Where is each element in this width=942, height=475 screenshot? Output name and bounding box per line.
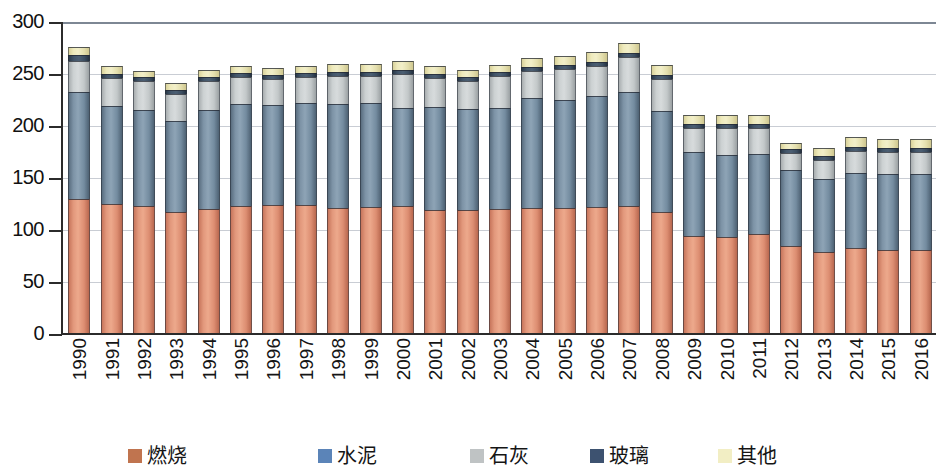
bar-column[interactable] [230,66,252,334]
bar-segment-combustion [489,209,511,334]
bar-segment-glass [165,90,187,94]
bar-segment-glass [68,55,90,60]
bar-segment-other [877,139,899,148]
bar-column[interactable] [521,58,543,334]
legend-item-cement[interactable]: 水泥 [318,446,377,466]
bar-segment-combustion [618,206,640,334]
bar-column[interactable] [683,115,705,334]
legend-label: 燃烧 [147,446,187,466]
bar-segment-cement [910,174,932,250]
legend-label: 其他 [737,446,777,466]
bar-segment-other [716,115,738,124]
bar-segment-cement [554,100,576,208]
legend-item-glass[interactable]: 玻璃 [590,446,649,466]
bar-segment-cement [748,154,770,234]
bar-segment-cement [813,179,835,252]
bar-column[interactable] [392,61,414,334]
x-axis-label-2004: 2004 [522,338,544,380]
bar-segment-combustion [198,209,220,334]
y-tick-label: 250 [0,63,44,83]
bar-segment-glass [748,124,770,128]
bar-segment-lime [360,76,382,103]
bar-column[interactable] [262,68,284,334]
bar-segment-combustion [295,205,317,334]
bar-column[interactable] [780,143,802,334]
bar-column[interactable] [457,70,479,334]
bar-column[interactable] [424,66,446,334]
bar-segment-cement [360,103,382,207]
bar-column[interactable] [295,66,317,334]
bar-segment-cement [101,106,123,204]
bar-segment-cement [295,103,317,205]
bar-segment-lime [295,77,317,103]
x-axis-label-1998: 1998 [328,338,350,380]
bar-column[interactable] [554,56,576,334]
legend-item-lime[interactable]: 石灰 [470,446,529,466]
bar-segment-combustion [877,250,899,334]
bar-segment-glass [651,75,673,79]
bar-segment-glass [877,148,899,152]
bar-segment-glass [198,77,220,81]
bar-column[interactable] [813,148,835,334]
x-axis-label-2011: 2011 [749,338,771,379]
bar-segment-lime [165,94,187,121]
x-axis-label-1999: 1999 [361,338,383,380]
x-axis-label-2007: 2007 [619,338,641,380]
bar-segment-lime [586,66,608,96]
bar-segment-cement [424,107,446,210]
x-axis-label-1996: 1996 [263,338,285,380]
bar-column[interactable] [133,71,155,334]
bar-segment-lime [845,151,867,173]
legend-label: 石灰 [489,446,529,466]
y-axis-line [61,22,63,335]
bar-segment-lime [780,153,802,170]
bar-column[interactable] [360,64,382,334]
bar-segment-combustion [910,250,932,334]
bar-column[interactable] [845,137,867,334]
legend-item-other[interactable]: 其他 [718,446,777,466]
bar-segment-lime [618,57,640,91]
bar-column[interactable] [68,47,90,334]
x-axis-label-2015: 2015 [878,338,900,380]
bar-segment-combustion [683,236,705,334]
bar-segment-glass [716,124,738,128]
x-axis-label-2001: 2001 [425,338,447,380]
bar-column[interactable] [101,66,123,334]
x-axis-label-2016: 2016 [911,338,933,380]
bar-column[interactable] [586,52,608,334]
bar-column[interactable] [910,139,932,334]
bar-column[interactable] [198,70,220,334]
bar-column[interactable] [165,83,187,334]
bar-segment-other [489,65,511,72]
y-tick-label: 100 [0,219,44,239]
legend-swatch-icon [718,449,732,463]
bar-segment-lime [424,78,446,107]
legend-item-combustion[interactable]: 燃烧 [128,446,187,466]
x-axis-label-2012: 2012 [781,338,803,380]
bar-segment-glass [327,72,349,76]
bar-column[interactable] [327,64,349,334]
bar-segment-cement [489,108,511,209]
y-tick-label: 50 [0,271,44,291]
bar-segment-other [198,70,220,77]
y-tick-label: 300 [0,11,44,31]
bar-segment-other [133,71,155,77]
bar-column[interactable] [618,43,640,334]
x-axis-label-1991: 1991 [102,338,124,380]
bar-segment-glass [780,149,802,153]
bar-segment-other [813,148,835,156]
x-axis-label-1997: 1997 [296,338,318,380]
bar-segment-cement [68,92,90,199]
x-axis-label-2013: 2013 [814,338,836,380]
bar-column[interactable] [716,115,738,334]
bar-segment-other [68,47,90,55]
bar-column[interactable] [877,139,899,334]
x-axis-labels: 1990199119921993199419951996199719981999… [62,338,936,436]
bar-column[interactable] [489,65,511,334]
bar-column[interactable] [651,65,673,334]
bar-segment-cement [457,109,479,210]
bar-segment-cement [521,98,543,208]
bar-segment-combustion [780,246,802,334]
bar-segment-glass [392,70,414,74]
bar-column[interactable] [748,115,770,334]
